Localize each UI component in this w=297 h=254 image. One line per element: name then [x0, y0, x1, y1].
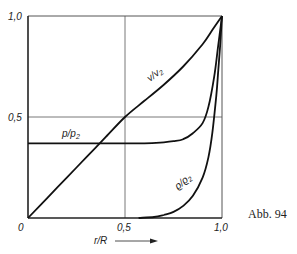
- x-tick-1: 1,0: [214, 222, 228, 233]
- figure-caption: Abb. 94: [248, 207, 287, 221]
- p-curve-label: p/p2: [61, 128, 80, 140]
- origin-tick: 0: [18, 222, 24, 233]
- arrow-right-icon: [150, 239, 158, 244]
- svg-text:p/p2: p/p2: [61, 128, 80, 140]
- p-label-sub: 2: [75, 133, 80, 140]
- v-curve-label: v/v2: [144, 65, 165, 85]
- y-tick-1: 1,0: [8, 11, 22, 22]
- rho-curve-label: ϱ/ϱ2: [172, 171, 194, 192]
- p-label-main: p/p: [61, 128, 76, 139]
- svg-text:v/v2: v/v2: [144, 65, 165, 85]
- x-tick-05: 0,5: [117, 222, 131, 233]
- y-tick-05: 0,5: [8, 112, 22, 123]
- x-axis-label: r/R: [94, 235, 107, 246]
- chart: 1,0 0,5 0 0,5 1,0 r/R v/v2 p/p2 ϱ/ϱ2 Abb…: [0, 0, 297, 254]
- svg-text:ϱ/ϱ2: ϱ/ϱ2: [172, 171, 194, 192]
